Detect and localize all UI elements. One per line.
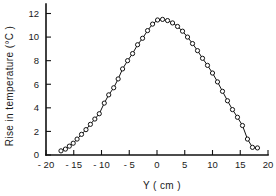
data-point-marker xyxy=(97,112,101,116)
data-point-marker xyxy=(255,146,259,150)
data-point-marker xyxy=(71,141,75,145)
data-point-marker xyxy=(79,132,83,136)
y-tick-label: 12 xyxy=(28,8,39,19)
y-tick-label: 2 xyxy=(34,126,39,137)
data-point-marker xyxy=(170,21,174,25)
data-point-marker xyxy=(102,101,106,105)
data-point-marker xyxy=(190,41,194,45)
x-tick-label: 20 xyxy=(263,159,274,170)
y-tick-label: 4 xyxy=(34,102,39,113)
x-tick-label: 10 xyxy=(207,159,218,170)
y-axis-title: Rise in temperature (°C ) xyxy=(4,26,15,147)
data-point-marker xyxy=(155,18,159,22)
x-tick-label: - 15 xyxy=(66,159,82,170)
data-point-marker xyxy=(200,56,204,60)
data-point-marker xyxy=(84,128,88,132)
data-point-marker xyxy=(160,17,164,21)
data-point-marker xyxy=(93,117,97,121)
data-point-marker xyxy=(215,80,219,84)
x-tick-label: 5 xyxy=(182,159,187,170)
data-series-line xyxy=(61,19,257,150)
data-point-marker xyxy=(195,49,199,53)
x-tick-label: - 5 xyxy=(124,159,135,170)
chart-figure: 024681012 - 20- 15- 10- 505101520 Y ( cm… xyxy=(0,0,276,196)
y-tick-label: 8 xyxy=(34,55,39,66)
x-tick-label: - 20 xyxy=(38,159,54,170)
data-point-marker xyxy=(240,123,244,127)
data-point-marker xyxy=(140,36,144,40)
data-point-marker xyxy=(150,22,154,26)
y-tick-label: 6 xyxy=(34,79,39,90)
x-tick-label: - 10 xyxy=(93,159,109,170)
data-point-marker xyxy=(230,108,234,112)
y-tick-label: 10 xyxy=(28,31,39,42)
data-point-marker xyxy=(205,63,209,67)
data-point-marker xyxy=(130,51,134,55)
data-point-marker xyxy=(180,29,184,33)
x-tick-label: 15 xyxy=(235,159,246,170)
x-axis-tick-labels: - 20- 15- 10- 505101520 xyxy=(38,159,273,170)
data-point-marker xyxy=(120,67,124,71)
chart-canvas: 024681012 - 20- 15- 10- 505101520 Y ( cm… xyxy=(0,0,276,196)
data-point-marker xyxy=(112,86,116,90)
data-point-marker xyxy=(225,99,229,103)
data-point-marker xyxy=(63,147,67,151)
data-series-markers xyxy=(59,17,260,153)
data-point-marker xyxy=(67,144,71,148)
data-point-marker xyxy=(107,93,111,97)
data-point-marker xyxy=(145,29,149,33)
data-point-marker xyxy=(210,71,214,75)
data-point-marker xyxy=(116,77,120,81)
data-point-marker xyxy=(135,43,139,47)
data-point-marker xyxy=(165,18,169,22)
data-point-marker xyxy=(245,137,249,141)
data-point-marker xyxy=(185,35,189,39)
data-point-marker xyxy=(220,89,224,93)
data-point-marker xyxy=(125,59,129,63)
x-tick-label: 0 xyxy=(154,159,159,170)
data-point-marker xyxy=(175,24,179,28)
data-point-marker xyxy=(250,145,254,149)
data-point-marker xyxy=(235,115,239,119)
y-axis-tick-labels: 024681012 xyxy=(28,8,39,161)
data-point-marker xyxy=(88,122,92,126)
x-axis-title: Y ( cm ) xyxy=(143,180,181,191)
data-point-marker xyxy=(59,149,63,153)
data-point-marker xyxy=(75,137,79,141)
